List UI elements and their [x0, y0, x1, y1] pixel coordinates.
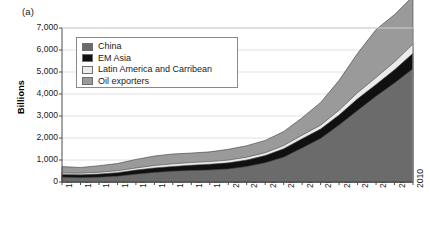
legend-swatch-oil-exporters — [82, 77, 93, 85]
legend-label: China — [98, 42, 122, 51]
legend-item: Latin America and Carribean — [82, 64, 232, 76]
figure-panel-a: (a) Billions 01,0002,0003,0004,0005,0006… — [0, 0, 430, 227]
legend-item: Oil exporters — [82, 76, 232, 88]
legend-label: EM Asia — [98, 54, 131, 63]
legend-label: Oil exporters — [98, 77, 149, 86]
legend-item: EM Asia — [82, 53, 232, 65]
area-series-group — [62, 0, 413, 182]
legend-swatch-latin-america — [82, 66, 93, 74]
chart-legend: China EM Asia Latin America and Carribea… — [76, 37, 238, 88]
legend-label: Latin America and Carribean — [98, 65, 212, 74]
stacked-area-plot — [0, 0, 430, 227]
legend-item: China — [82, 41, 232, 53]
legend-swatch-china — [82, 43, 93, 51]
legend-swatch-em-asia — [82, 54, 93, 62]
